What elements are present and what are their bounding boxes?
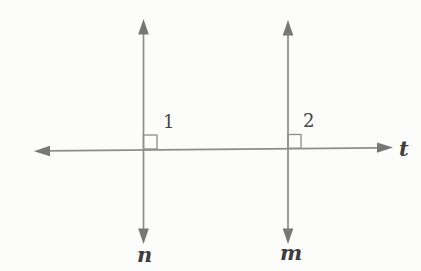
line-label-m: m — [280, 240, 302, 265]
transversal-left-arrow-icon — [34, 146, 50, 156]
line-m-up-arrow-icon — [283, 20, 294, 36]
right-angle-mark-left — [144, 135, 158, 149]
line-label-n: n — [137, 242, 152, 267]
transversal-line-t — [47, 148, 380, 151]
geometry-diagram: 1 2 t n m — [0, 0, 421, 271]
angle-label-1: 1 — [163, 111, 174, 132]
line-label-t: t — [399, 136, 409, 161]
line-n-up-arrow-icon — [138, 19, 149, 35]
transversal-right-arrow-icon — [377, 142, 393, 152]
angle-label-2: 2 — [303, 110, 314, 131]
right-angle-mark-right — [288, 135, 301, 149]
diagram-canvas: 1 2 t n m — [0, 0, 421, 271]
